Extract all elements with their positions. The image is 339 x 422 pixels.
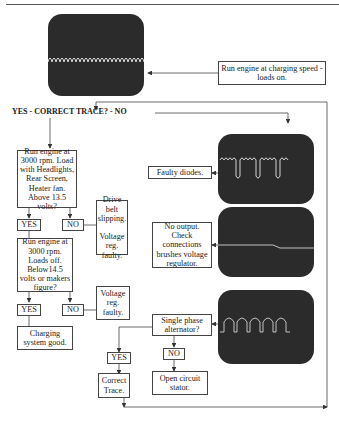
test1-box: Run engine at 3000 rpm. Load with Headli…: [17, 150, 77, 208]
test1-yes: YES: [17, 219, 41, 231]
test2-box: Run engine at 3000 rpm. Loads off. Below…: [17, 238, 73, 292]
test2-yes: YES: [17, 304, 41, 316]
flat-trace-icon: [218, 207, 314, 277]
oscilloscope-normal: [48, 14, 144, 96]
correct-trace-box: Correct Trace.: [98, 373, 130, 398]
oscilloscope-no-output: [218, 207, 314, 277]
no-output-box: No output. Check connections brushes vol…: [152, 222, 212, 268]
ripple-trace-icon: [48, 14, 144, 96]
test1-no-result: Drive belt slipping. Voltage reg. faulty…: [96, 200, 128, 255]
start-instruction-box: Run engine at charging speed - loads on.: [218, 61, 326, 85]
test1-no: NO: [62, 219, 84, 231]
faulty-diodes-box: Faulty diodes.: [148, 166, 212, 179]
test2-yes-result: Charging system good.: [17, 326, 73, 350]
single-phase-no: NO: [163, 348, 185, 360]
single-phase-trace-icon: [218, 290, 314, 364]
oscilloscope-single-phase: [218, 290, 314, 364]
correct-trace-question: YES - CORRECT TRACE? - NO: [12, 107, 127, 116]
single-phase-question-box: Single phase alternator?: [152, 314, 212, 336]
faulty-diode-trace-icon: [218, 134, 314, 204]
single-phase-yes: YES: [107, 352, 131, 364]
open-circuit-stator-box: Open circuit stator.: [152, 371, 208, 395]
test2-no-result: Voltage reg. faulty.: [96, 286, 130, 320]
test2-no: NO: [62, 304, 84, 316]
oscilloscope-faulty-diodes: [218, 134, 314, 204]
